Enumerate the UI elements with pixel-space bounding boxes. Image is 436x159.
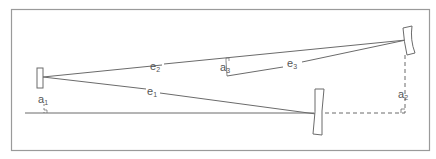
beam-e1 xyxy=(43,77,146,89)
beam-e3-left xyxy=(227,67,283,76)
beam-e2 xyxy=(43,65,162,77)
frame xyxy=(12,10,430,151)
beam-e1-right xyxy=(160,93,316,114)
optical-path-diagram: e2 e1 e3 a1 a2 a3 xyxy=(0,0,436,159)
label-a2: a2 xyxy=(398,88,408,101)
label-e2: e2 xyxy=(150,60,160,73)
label-a3: a3 xyxy=(220,61,230,74)
beam-e3 xyxy=(302,40,406,62)
label-e1: e1 xyxy=(147,85,157,98)
label-e3: e3 xyxy=(287,57,297,70)
bottom-mirror xyxy=(313,89,324,135)
right-angle-marker-a2 xyxy=(401,109,405,113)
right-mirror xyxy=(403,26,415,55)
beam-e2-right xyxy=(164,40,406,64)
label-a1: a1 xyxy=(38,93,48,106)
right-angle-marker-a3 xyxy=(226,58,229,61)
left-mirror xyxy=(37,68,43,88)
